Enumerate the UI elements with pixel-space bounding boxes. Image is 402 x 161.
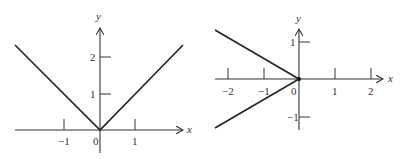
right-x-tick-label-neg1: −1 bbox=[258, 85, 270, 97]
left-x-tick-label-neg1: −1 bbox=[58, 135, 70, 147]
left-y-tick-label-1: 1 bbox=[90, 88, 96, 100]
right-x-tick-label-neg2: −2 bbox=[222, 85, 234, 97]
left-y-axis-label: y bbox=[95, 10, 101, 22]
left-origin-label: 0 bbox=[93, 135, 99, 147]
right-graph: −2 −1 0 1 2 1 −1 x y bbox=[215, 12, 393, 130]
left-abs-curve bbox=[15, 45, 183, 130]
graphs-figure: −1 0 1 1 2 x y −2 −1 0 1 2 1 −1 x y bbox=[0, 0, 402, 161]
left-x-axis-label: x bbox=[186, 123, 192, 135]
right-y-tick-label-neg1: −1 bbox=[287, 111, 299, 123]
left-y-tick-label-2: 2 bbox=[90, 51, 96, 63]
right-x-tick-label-2: 2 bbox=[368, 85, 374, 97]
left-graph: −1 0 1 1 2 x y bbox=[15, 10, 192, 153]
right-origin-label: 0 bbox=[291, 85, 297, 97]
right-x-axis-label: x bbox=[387, 72, 393, 84]
right-x-tick-label-1: 1 bbox=[332, 85, 338, 97]
left-x-tick-label-1: 1 bbox=[132, 135, 138, 147]
right-y-axis-label: y bbox=[295, 12, 301, 24]
right-y-tick-label-1: 1 bbox=[290, 36, 296, 48]
right-origin-dot bbox=[297, 77, 301, 81]
